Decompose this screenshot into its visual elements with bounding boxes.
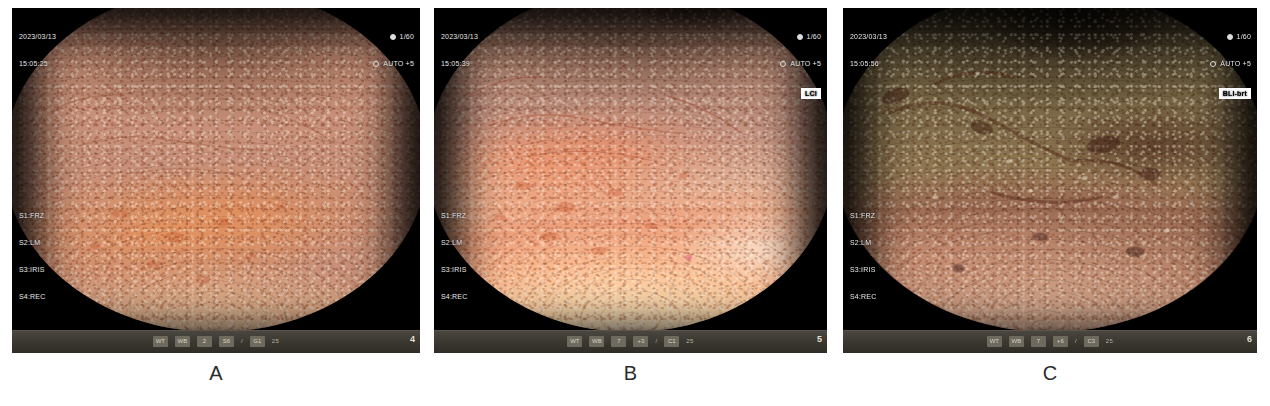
osd-exposure-c: 1/60 AUTO +5 BLI-brt [1210, 14, 1251, 117]
osd-shutter-a: 1/60 [400, 32, 414, 41]
status-item: 7 [1031, 336, 1046, 347]
frame-number-a: 4 [410, 333, 415, 346]
vessel-pattern-b [434, 8, 827, 332]
status-item: WB [1009, 336, 1024, 347]
status-item: +6 [1053, 336, 1068, 347]
osd-iris-a: AUTO +5 [383, 59, 414, 68]
osd-date-b: 2023/03/13 [441, 32, 478, 41]
vessel-pattern-a [12, 8, 420, 332]
softkey-s4-a: S4:REC [19, 292, 46, 301]
imaging-mode-badge-c: BLI-brt [1219, 88, 1251, 99]
osd-iris-b: AUTO +5 [790, 59, 821, 68]
endoscopic-image-panel-b: 2023/03/13 15:05:39 1/60 AUTO +5 LCI S1:… [434, 8, 827, 353]
panel-caption-c: C [843, 362, 1257, 385]
status-item: 7 [611, 336, 626, 347]
osd-time-b: 15:05:39 [441, 59, 478, 68]
softkey-s3-b: S3:IRIS [441, 265, 468, 274]
osd-shutter-b: 1/60 [807, 32, 821, 41]
osd-softkeys-c: S1:FRZ S2:LM S3:IRIS S4:REC [850, 193, 877, 319]
osd-date-a: 2023/03/13 [19, 32, 56, 41]
iris-icon-c [1210, 61, 1216, 67]
osd-timestamp-b: 2023/03/13 15:05:39 [441, 14, 478, 86]
panel-caption-a: A [12, 362, 420, 385]
softkey-s2-b: S2:LM [441, 238, 468, 247]
softkey-s2-a: S2:LM [19, 238, 46, 247]
osd-iris-c: AUTO +5 [1220, 59, 1251, 68]
status-item: WB [175, 336, 190, 347]
scope-view-a [12, 8, 420, 353]
status-bar-a: WT WB 2 S6 / G1 25 4 [12, 330, 420, 353]
softkey-s4-c: S4:REC [850, 292, 877, 301]
status-item: / [655, 336, 657, 347]
softkey-s3-a: S3:IRIS [19, 265, 46, 274]
frame-number-c: 6 [1247, 333, 1252, 346]
osd-softkeys-a: S1:FRZ S2:LM S3:IRIS S4:REC [19, 193, 46, 319]
shutter-icon-c [1227, 34, 1233, 40]
endoscopy-figure: 2023/03/13 15:05:25 1/60 AUTO +5 S1:FRZ … [0, 0, 1270, 406]
osd-exposure-a: 1/60 AUTO +5 [373, 14, 414, 86]
shutter-icon-a [390, 34, 396, 40]
status-item: +3 [633, 336, 648, 347]
endoscopic-image-panel-c: 2023/03/13 15:05:56 1/60 AUTO +5 BLI-brt… [843, 8, 1257, 353]
status-item: 25 [686, 336, 693, 347]
osd-softkeys-b: S1:FRZ S2:LM S3:IRIS S4:REC [441, 193, 468, 319]
mucosa-image-a [12, 8, 420, 332]
osd-time-c: 15:05:56 [850, 59, 887, 68]
osd-shutter-c: 1/60 [1237, 32, 1251, 41]
endoscopic-image-panel-a: 2023/03/13 15:05:25 1/60 AUTO +5 S1:FRZ … [12, 8, 420, 353]
mucosa-image-b [434, 8, 827, 332]
status-item: C3 [1084, 336, 1099, 347]
softkey-s4-b: S4:REC [441, 292, 468, 301]
status-bar-c: WT WB 7 +6 / C3 25 6 [843, 330, 1257, 353]
osd-date-c: 2023/03/13 [850, 32, 887, 41]
softkey-s1-c: S1:FRZ [850, 211, 877, 220]
status-item: 2 [197, 336, 212, 347]
status-item: / [241, 336, 243, 347]
status-item: WT [987, 336, 1002, 347]
status-item: / [1075, 336, 1077, 347]
status-item: 25 [1106, 336, 1113, 347]
softkey-s1-a: S1:FRZ [19, 211, 46, 220]
iris-icon-a [373, 61, 379, 67]
status-item: 25 [272, 336, 279, 347]
shutter-icon-b [797, 34, 803, 40]
status-item: WT [153, 336, 168, 347]
softkey-s3-c: S3:IRIS [850, 265, 877, 274]
softkey-s1-b: S1:FRZ [441, 211, 468, 220]
status-item: C1 [664, 336, 679, 347]
osd-timestamp-a: 2023/03/13 15:05:25 [19, 14, 56, 86]
softkey-s2-c: S2:LM [850, 238, 877, 247]
osd-timestamp-c: 2023/03/13 15:05:56 [850, 14, 887, 86]
panel-caption-b: B [434, 362, 827, 385]
frame-number-b: 5 [817, 333, 822, 346]
vessel-pattern-c [843, 8, 1257, 332]
osd-exposure-b: 1/60 AUTO +5 LCI [780, 14, 821, 117]
scope-view-b [434, 8, 827, 353]
osd-time-a: 15:05:25 [19, 59, 56, 68]
status-item: G1 [250, 336, 265, 347]
iris-icon-b [780, 61, 786, 67]
status-item: S6 [219, 336, 234, 347]
imaging-mode-badge-b: LCI [801, 88, 821, 99]
status-item: WT [567, 336, 582, 347]
status-item: WB [589, 336, 604, 347]
mucosa-image-c [843, 8, 1257, 332]
status-bar-b: WT WB 7 +3 / C1 25 5 [434, 330, 827, 353]
scope-view-c [843, 8, 1257, 353]
